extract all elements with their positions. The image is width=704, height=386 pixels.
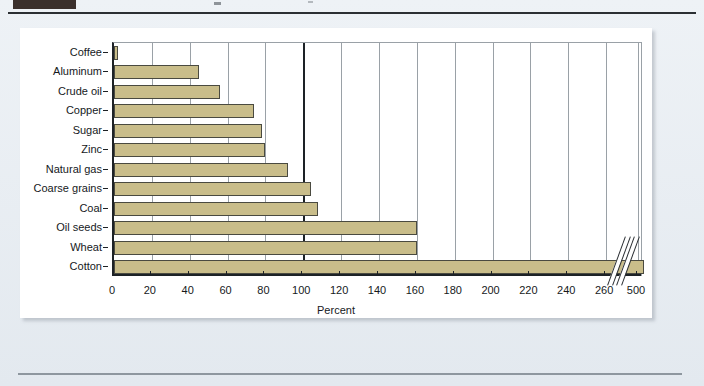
x-axis-tick-label: 220: [519, 284, 537, 296]
x-axis-tick: [604, 271, 605, 276]
y-axis-tick-label: Coffee: [70, 45, 102, 59]
x-axis-tick-label: 180: [444, 284, 462, 296]
x-axis-title: Percent: [20, 304, 652, 316]
y-axis-category-labels: CoffeeAluminumCrude oilCopperSugarZincNa…: [20, 42, 108, 276]
x-axis-tick-label: 160: [406, 284, 424, 296]
x-axis-tick: [339, 271, 340, 276]
y-axis-tick: [103, 188, 108, 189]
y-axis-tick-label: Cotton: [70, 259, 102, 273]
y-axis-tick-label: Oil seeds: [56, 220, 102, 234]
x-axis-tick: [150, 271, 151, 276]
y-axis-tick: [103, 266, 108, 267]
x-axis-tick: [263, 271, 264, 276]
bar: [114, 85, 220, 99]
x-axis-tick: [636, 271, 637, 276]
x-axis-tick: [112, 271, 113, 276]
x-axis-tick-label: 120: [330, 284, 348, 296]
bar: [114, 221, 417, 235]
x-axis-tick-label: 60: [219, 284, 231, 296]
x-axis-tick-label: 80: [257, 284, 269, 296]
bar-row: [114, 202, 641, 216]
y-axis-tick-label: Natural gas: [46, 162, 102, 176]
bar-row: [114, 182, 641, 196]
y-axis-tick-label: Sugar: [73, 123, 102, 137]
x-axis-tick: [528, 271, 529, 276]
bar: [114, 65, 199, 79]
bar-row: [114, 241, 641, 255]
x-axis-tick-label: 240: [557, 284, 575, 296]
bar: [114, 202, 318, 216]
x-axis-tick: [453, 271, 454, 276]
x-axis-tick-label: 500: [627, 284, 645, 296]
y-axis-tick: [103, 52, 108, 53]
x-axis-tick-label: 20: [144, 284, 156, 296]
bar: [114, 163, 288, 177]
bar: [114, 104, 254, 118]
x-axis-tick: [415, 271, 416, 276]
plot-area: [112, 42, 642, 276]
x-axis-tick: [377, 271, 378, 276]
x-axis-tick-labels: 020406080100120140160180200220240260500: [112, 284, 642, 300]
header-divider: [8, 12, 696, 14]
y-axis-tick: [103, 169, 108, 170]
x-axis-tick-label: 40: [182, 284, 194, 296]
y-axis-tick: [103, 227, 108, 228]
x-axis-tick-label: 200: [481, 284, 499, 296]
y-axis-tick: [103, 149, 108, 150]
bar-row: [114, 143, 641, 157]
y-axis-tick-label: Copper: [66, 103, 102, 117]
footer-divider: [18, 373, 682, 375]
y-axis-tick: [103, 208, 108, 209]
bar: [114, 182, 311, 196]
y-axis-tick: [103, 247, 108, 248]
x-axis-tick: [491, 271, 492, 276]
bar-row: [114, 65, 641, 79]
y-axis-tick-label: Zinc: [81, 142, 102, 156]
x-axis-tick-label: 0: [109, 284, 115, 296]
x-axis-tick-label: 100: [292, 284, 310, 296]
bar-row: [114, 221, 641, 235]
x-axis-tick: [301, 271, 302, 276]
y-axis-tick-label: Coarse grains: [34, 181, 102, 195]
y-axis-tick: [103, 71, 108, 72]
cropped-text-fragment: [308, 1, 313, 3]
y-axis-tick-label: Aluminum: [53, 64, 102, 78]
x-axis-tick-label: 260: [595, 284, 613, 296]
bar: [114, 241, 417, 255]
bar-row: [114, 46, 641, 60]
y-axis-tick: [103, 91, 108, 92]
y-axis-tick-label: Coal: [79, 201, 102, 215]
x-axis-tick-label: 140: [368, 284, 386, 296]
x-axis-tick: [566, 271, 567, 276]
cropped-text-fragment: [214, 2, 221, 5]
x-axis-tick: [226, 271, 227, 276]
x-axis-tick: [188, 271, 189, 276]
bar: [114, 260, 644, 274]
bar-row: [114, 124, 641, 138]
y-axis-tick: [103, 130, 108, 131]
bar-series: [114, 43, 641, 275]
bar: [114, 46, 118, 60]
page-background: CoffeeAluminumCrude oilCopperSugarZincNa…: [0, 0, 704, 386]
chart-figure: CoffeeAluminumCrude oilCopperSugarZincNa…: [20, 28, 652, 318]
y-axis-tick-label: Crude oil: [58, 84, 102, 98]
y-axis-tick-label: Wheat: [70, 240, 102, 254]
bar: [114, 143, 265, 157]
page-header-block: [13, 0, 76, 9]
bar: [114, 124, 262, 138]
bar-row: [114, 85, 641, 99]
bar-row: [114, 163, 641, 177]
y-axis-tick: [103, 110, 108, 111]
bar-row: [114, 104, 641, 118]
